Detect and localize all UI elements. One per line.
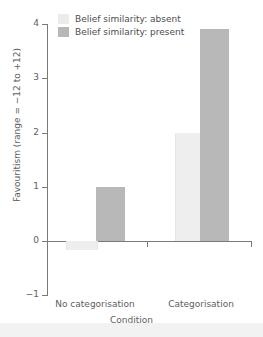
y-tick-mark	[42, 295, 47, 296]
bar-no-categorisation-absent	[66, 241, 98, 250]
x-category-label-no-categorisation: No categorisation	[40, 299, 150, 309]
legend-swatch-present-icon	[58, 27, 69, 37]
y-tick-mark	[42, 187, 47, 188]
legend-item-absent: Belief similarity: absent	[58, 12, 184, 25]
x-tick-mark	[251, 242, 252, 247]
y-tick-mark	[42, 241, 47, 242]
bar-categorisation-present	[200, 29, 229, 241]
y-axis-line	[47, 24, 48, 296]
figure: Belief similarity: absent Belief similar…	[0, 0, 263, 337]
x-tick-mark	[147, 242, 148, 247]
bar-no-categorisation-present	[96, 187, 125, 241]
y-tick-mark	[42, 24, 47, 25]
legend-label-present: Belief similarity: present	[75, 27, 184, 37]
legend-label-absent: Belief similarity: absent	[75, 14, 181, 24]
legend-item-present: Belief similarity: present	[58, 25, 184, 38]
x-category-label-categorisation: Categorisation	[150, 299, 252, 309]
bar-categorisation-absent	[175, 133, 202, 241]
y-tick-mark	[42, 133, 47, 134]
y-tick-label: −1	[15, 290, 39, 299]
chart-legend: Belief similarity: absent Belief similar…	[58, 12, 184, 38]
y-tick-mark	[42, 78, 47, 79]
y-axis-title: Favouritism (range = −12 to +12)	[12, 20, 22, 230]
y-tick-label: 0	[15, 236, 39, 245]
page-footer-band	[0, 323, 263, 337]
legend-swatch-absent-icon	[58, 14, 69, 24]
